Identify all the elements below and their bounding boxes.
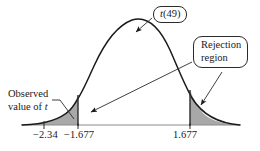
t-distribution-curve xyxy=(22,19,240,125)
right-rejection-shade xyxy=(190,90,240,125)
observed-value-symbol: t xyxy=(45,101,48,112)
curve-label-argument: (49) xyxy=(163,8,181,19)
axis-tick-label-negative-2-34: −2.34 xyxy=(33,129,58,141)
observed-value-line-2: value of t xyxy=(8,101,48,114)
rejection-leader-right xyxy=(201,72,222,105)
rejection-region-line-2: region xyxy=(201,52,241,65)
observed-value-line-1: Observed xyxy=(8,88,48,101)
observed-value-annotation: Observed value of t xyxy=(8,88,48,114)
rejection-leader-left xyxy=(91,62,192,112)
t-distribution-figure: −2.34 −1.677 1.677 Observed value of t t… xyxy=(0,0,260,151)
curve-label-callout: t(49) xyxy=(153,6,187,23)
axis-tick-label-positive-1-677: 1.677 xyxy=(173,129,197,141)
rejection-region-line-1: Rejection xyxy=(201,39,241,52)
rejection-region-callout: Rejection region xyxy=(193,36,248,68)
axis-tick-label-negative-1-677: −1.677 xyxy=(64,129,94,141)
observed-value-line-2-text: value of xyxy=(8,101,45,112)
